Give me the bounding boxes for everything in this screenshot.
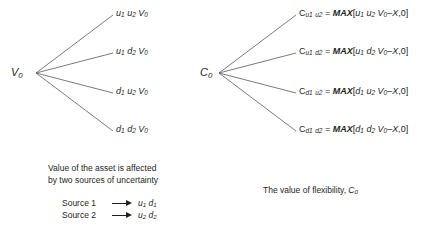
legend-label-source-2: Source 2: [62, 209, 108, 221]
payoff-3-t1-sub: 1: [360, 89, 364, 96]
left-branch-1: [36, 15, 113, 73]
payoff-1-equals: =: [325, 8, 330, 18]
right-tree-caption: The value of flexibility, C0: [263, 173, 358, 196]
payoff-3: Cd1 u2 = MAX[d1 u2 V0–X,0]: [299, 86, 408, 96]
leaf-3-factor2-sub: 2: [132, 89, 136, 96]
payoff-3-equals: =: [325, 86, 330, 96]
right-root-node-c0: C0: [200, 67, 212, 78]
payoff-2-t1-sub: 1: [360, 49, 364, 56]
legend-row-source-2: Source 2 u2 d2: [62, 209, 157, 221]
payoff-3-t2-sub: 2: [371, 89, 375, 96]
leaf-4-factor2-sub: 2: [132, 127, 136, 134]
payoff-3-bracket-close: ]: [406, 86, 409, 96]
payoff-1-bracket-close: ]: [406, 8, 409, 18]
payoff-4: Cd1 d2 = MAX[d1 d2 V0–X,0]: [299, 124, 408, 134]
left-leaf-3: d1 u2 V0: [116, 86, 148, 96]
payoff-4-t2-sub: 2: [371, 127, 375, 134]
right-arrow-icon: [112, 210, 134, 220]
legend-2-up-sub: 2: [143, 213, 146, 220]
left-branch-4: [36, 73, 113, 131]
leaf-4-value-sub: 0: [144, 127, 148, 134]
leaf-1-value-sub: 0: [144, 11, 148, 18]
leaf-2-factor1-sub: 1: [121, 49, 125, 56]
right-caption-text: The value of flexibility,: [263, 185, 348, 195]
payoff-4-zero: ,0: [398, 124, 406, 134]
payoff-2-t2-sub: 2: [371, 49, 375, 56]
payoff-1-c-sub-a-num: 1: [309, 11, 313, 18]
payoff-1: Cu1 u2 = MAX[u1 u2 V0–X,0]: [299, 8, 408, 18]
right-caption-symbol-sub: 0: [355, 188, 358, 195]
payoff-4-bracket-close: ]: [406, 124, 409, 134]
payoff-1-max: MAX: [333, 8, 353, 18]
legend-label-source-1: Source 1: [62, 197, 108, 209]
payoff-2-c-sub-a-num: 1: [309, 49, 313, 56]
left-leaf-4: d1 d2 V0: [116, 124, 148, 134]
right-root-symbol: C: [200, 66, 208, 78]
binomial-options-diagram: V0 u1 u2 V0 u1 d2 V0 d1 u2 V0 d1 d2 V0 V…: [0, 0, 422, 231]
payoff-3-max: MAX: [333, 86, 353, 96]
payoff-2-c-sub-b-num: 2: [319, 49, 323, 56]
left-leaf-2: u1 d2 V0: [116, 46, 148, 56]
payoff-3-c-sub-b-num: 2: [319, 89, 323, 96]
left-root-subscript: 0: [18, 71, 22, 80]
leaf-2-value-sub: 0: [144, 49, 148, 56]
right-arrow-icon: [112, 198, 134, 208]
left-branch-2: [36, 53, 113, 73]
legend-1-down-sub: 1: [153, 201, 156, 208]
right-root-subscript: 0: [208, 71, 212, 80]
leaf-3-value-sub: 0: [144, 89, 148, 96]
payoff-4-c-sub-b-num: 2: [319, 127, 323, 134]
legend-values-source-2: u2 d2: [138, 209, 157, 221]
payoff-3-c-sub-a-num: 1: [309, 89, 313, 96]
payoff-4-t1-sub: 1: [360, 127, 364, 134]
left-leaf-1: u1 u2 V0: [116, 8, 148, 18]
leaf-3-factor1-sub: 1: [121, 89, 125, 96]
leaf-2-factor2-sub: 2: [132, 49, 136, 56]
payoff-2-zero: ,0: [398, 46, 406, 56]
payoff-2: Cu1 d2 = MAX[u1 d2 V0–X,0]: [299, 46, 408, 56]
payoff-3-zero: ,0: [398, 86, 406, 96]
payoff-4-max: MAX: [333, 124, 353, 134]
payoff-4-equals: =: [325, 124, 330, 134]
leaf-1-factor1-sub: 1: [121, 11, 125, 18]
left-branch-3: [36, 73, 113, 93]
payoff-1-c-sub-b-num: 2: [319, 11, 323, 18]
leaf-4-factor1-sub: 1: [121, 127, 125, 134]
payoff-2-equals: =: [325, 46, 330, 56]
payoff-1-t2-sub: 2: [371, 11, 375, 18]
legend-values-source-1: u1 d1: [138, 197, 157, 209]
right-branch-3: [219, 73, 296, 93]
payoff-1-t1-sub: 1: [360, 11, 364, 18]
right-branch-1: [219, 15, 296, 73]
right-branch-2: [219, 53, 296, 73]
payoff-1-zero: ,0: [398, 8, 406, 18]
legend-row-source-1: Source 1 u1 d1: [62, 197, 157, 209]
left-root-node-v0: V0: [11, 67, 23, 78]
payoff-2-max: MAX: [333, 46, 353, 56]
left-tree-caption: Value of the asset is affected by two so…: [48, 163, 158, 186]
legend-2-down-sub: 2: [153, 213, 156, 220]
payoff-2-bracket-close: ]: [406, 46, 409, 56]
leaf-1-factor2-sub: 2: [132, 11, 136, 18]
legend-1-up-sub: 1: [143, 201, 146, 208]
right-branch-4: [219, 73, 296, 131]
payoff-4-c-sub-a-num: 1: [309, 127, 313, 134]
